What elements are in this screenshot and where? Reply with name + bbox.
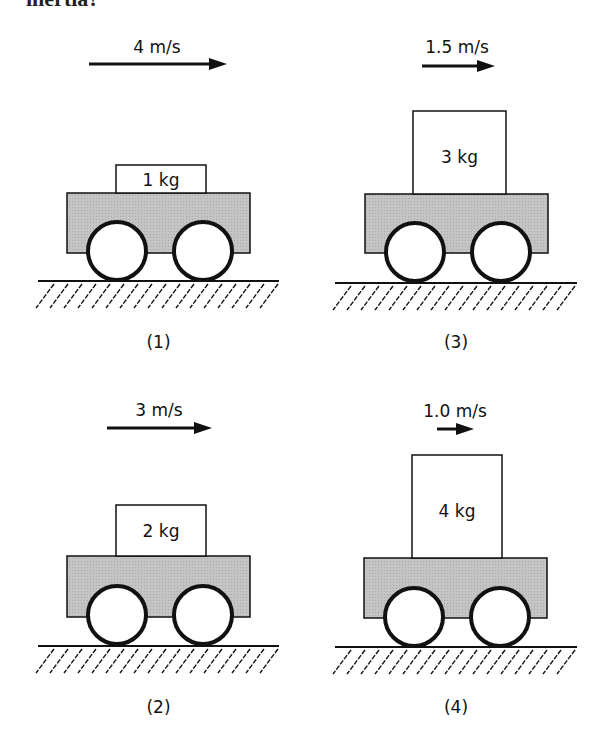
wheel-icon	[88, 222, 146, 280]
velocity-label: 3 m/s	[135, 400, 183, 420]
panel-caption: (3)	[444, 332, 468, 352]
velocity-label: 1.5 m/s	[425, 37, 489, 57]
ground-hatch	[36, 281, 279, 308]
wheel-icon	[174, 586, 232, 644]
wheel-icon	[471, 588, 529, 646]
panel-caption: (4)	[444, 697, 468, 717]
velocity-label: 4 m/s	[133, 37, 181, 57]
panel-caption: (1)	[146, 332, 170, 352]
ground-hatch	[36, 646, 279, 673]
wheel-icon	[385, 588, 443, 646]
velocity-arrow-icon	[107, 422, 212, 434]
wheel-icon	[472, 223, 530, 281]
panel-caption: (2)	[146, 697, 170, 717]
wheel-icon	[88, 586, 146, 644]
cart-panel-1: 4 m/s1 kg(1)	[36, 37, 279, 352]
velocity-arrow-icon	[89, 58, 227, 70]
mass-label: 3 kg	[441, 147, 478, 167]
cart-panel-2: 3 m/s2 kg(2)	[36, 400, 279, 717]
wheel-icon	[386, 223, 444, 281]
cart-panel-4: 1.0 m/s4 kg(4)	[333, 401, 577, 717]
velocity-label: 1.0 m/s	[423, 401, 487, 421]
velocity-arrow-icon	[437, 423, 474, 435]
ground-hatch	[333, 647, 577, 674]
wheel-icon	[174, 222, 232, 280]
ground-hatch	[333, 283, 577, 310]
velocity-arrow-icon	[422, 60, 495, 72]
mass-label: 1 kg	[143, 170, 180, 190]
cart-panel-3: 1.5 m/s3 kg(3)	[333, 37, 577, 352]
mass-label: 2 kg	[143, 521, 180, 541]
mass-label: 4 kg	[439, 501, 476, 521]
carts-diagram: 4 m/s1 kg(1)1.5 m/s3 kg(3)3 m/s2 kg(2)1.…	[0, 0, 612, 744]
